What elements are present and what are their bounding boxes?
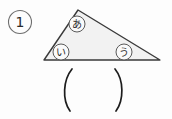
worksheet-page: 1 あ い う [0,0,172,119]
angle-label-apex: あ [69,16,85,32]
answer-blank-left-paren [65,69,72,111]
parenthesis-answer-blank[interactable] [65,69,122,111]
angle-label-right-text: う [119,47,129,58]
answer-blank-right-paren [115,69,122,111]
problem-number-label: 1 [16,14,25,30]
worksheet-figure-canvas: 1 あ い う [0,0,172,119]
angle-label-apex-text: あ [72,19,82,30]
angle-label-left-text: い [56,47,66,58]
angle-label-left: い [53,44,69,60]
angle-label-right: う [116,44,132,60]
circled-number-one: 1 [9,11,32,34]
